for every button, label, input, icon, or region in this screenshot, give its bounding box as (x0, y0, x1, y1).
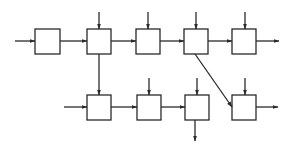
block-a (35, 29, 60, 54)
block-diagram (0, 0, 293, 149)
block-i (232, 95, 256, 120)
block-f (87, 95, 111, 120)
block-b (87, 29, 111, 54)
block-e (232, 29, 256, 54)
block-h (185, 95, 209, 120)
block-d (184, 29, 208, 54)
block-g (137, 95, 161, 120)
block-c (136, 29, 160, 54)
